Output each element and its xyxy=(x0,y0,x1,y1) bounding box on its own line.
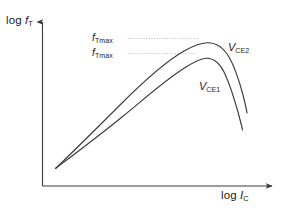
curve-label-vce1-subscript: CE1 xyxy=(206,86,220,93)
annotation-ftmax-lower: fTmax xyxy=(92,46,113,58)
annotation-ftmax-upper: fTmax xyxy=(92,31,113,43)
annotation-ftmax-lower-subscript: Tmax xyxy=(95,52,113,59)
x-axis-label-prefix: log xyxy=(221,189,240,201)
figure-container: log fT log IC fTmax fTmax VCE2 VCE1 xyxy=(0,0,292,212)
y-axis-label: log fT xyxy=(6,14,33,26)
curve-vce1 xyxy=(56,58,243,168)
x-axis-label-subscript: C xyxy=(243,194,249,203)
curve-label-vce2: VCE2 xyxy=(228,41,249,53)
y-axis-label-prefix: log xyxy=(6,14,25,26)
annotation-ftmax-upper-subscript: Tmax xyxy=(95,37,113,44)
curve-label-vce1: VCE1 xyxy=(199,80,220,92)
curve-label-vce2-subscript: CE2 xyxy=(235,47,249,54)
curve-vce2 xyxy=(56,43,248,169)
y-axis-label-subscript: T xyxy=(28,19,33,28)
x-axis-label: log IC xyxy=(221,189,249,201)
chart-canvas xyxy=(0,0,292,212)
